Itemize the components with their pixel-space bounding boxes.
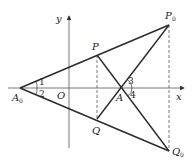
segment-p-q0	[97, 55, 169, 151]
x-axis-label: x	[176, 91, 182, 102]
geometry-diagram: 1 2 3 4 x y O A 0 P Q A P 0 Q 0	[0, 0, 196, 168]
y-axis-label: y	[55, 13, 62, 24]
point-label-p0-subscript: 0	[172, 15, 176, 22]
point-label-p0: P	[164, 10, 172, 21]
origin-label: O	[57, 90, 65, 101]
point-label-a0-subscript: 0	[19, 97, 23, 104]
point-label-a: A	[115, 92, 123, 103]
angle-label-1: 1	[39, 77, 45, 87]
angle-label-4: 4	[130, 90, 136, 100]
angle-label-2: 2	[39, 89, 45, 99]
point-label-p: P	[91, 41, 99, 52]
angle-1-arc	[36, 81, 37, 88]
point-label-a0: A	[11, 92, 19, 103]
angle-label-3: 3	[128, 76, 134, 86]
segment-q-p0	[97, 25, 169, 119]
point-label-q: Q	[92, 125, 100, 136]
point-label-q0: Q	[172, 146, 180, 157]
angle-2-arc	[36, 88, 37, 95]
point-label-q0-subscript: 0	[180, 151, 184, 158]
